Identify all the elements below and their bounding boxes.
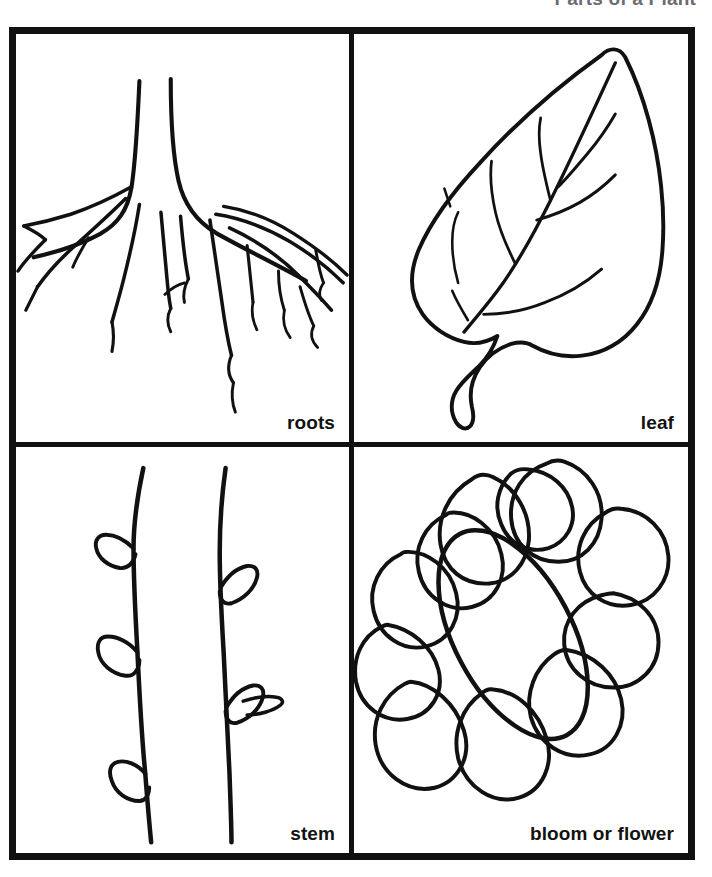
- panel-label-roots: roots: [287, 412, 335, 434]
- worksheet-frame: roots: [9, 27, 695, 860]
- roots-illustration: [16, 34, 349, 442]
- flower-illustration: [354, 447, 688, 854]
- worksheet-title-strip: Parts of a Plant: [0, 0, 712, 14]
- panel-leaf[interactable]: leaf: [352, 34, 688, 444]
- leaf-illustration: [354, 34, 688, 442]
- panel-label-leaf: leaf: [641, 412, 674, 434]
- panel-stem[interactable]: stem: [16, 444, 352, 854]
- panel-label-bloom: bloom or flower: [530, 823, 674, 845]
- stem-illustration: [16, 447, 349, 854]
- panel-roots[interactable]: roots: [16, 34, 352, 444]
- panel-label-stem: stem: [290, 823, 335, 845]
- page-title: Parts of a Plant: [554, 0, 696, 10]
- panel-grid: roots: [16, 34, 688, 853]
- panel-bloom[interactable]: bloom or flower: [352, 444, 688, 854]
